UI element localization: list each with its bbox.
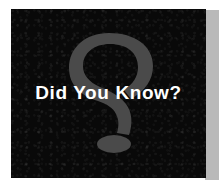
did-you-know-banner: Did You Know? (0, 0, 219, 192)
accent-strip (205, 10, 219, 180)
page-title: Did You Know? (11, 83, 206, 103)
dark-panel: Did You Know? (11, 9, 206, 178)
